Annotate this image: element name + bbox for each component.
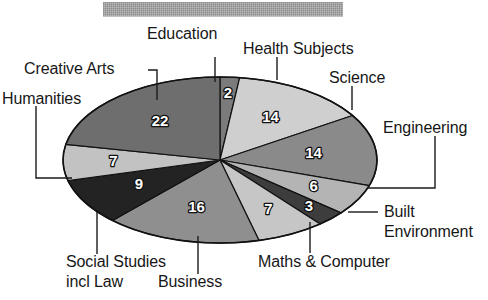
- label-humanities: Humanities: [2, 89, 81, 108]
- slice-value-label: 9: [135, 175, 143, 192]
- slice-value-label: 3: [305, 197, 313, 214]
- label-science: Science: [329, 68, 385, 87]
- label-built-environment-line1: Built: [384, 202, 415, 221]
- slice-value-label: 6: [309, 177, 317, 194]
- slice-value-label: 22: [152, 112, 169, 129]
- slice-value-label: 14: [262, 108, 279, 125]
- slice-value-label: 7: [109, 152, 117, 169]
- label-business: Business: [158, 272, 222, 291]
- label-engineering: Engineering: [383, 118, 467, 137]
- slice-value-label: 7: [264, 200, 272, 217]
- label-social-studies-line2: incl Law: [66, 272, 123, 291]
- label-maths-computer: Maths & Computer: [258, 252, 390, 271]
- label-built-environment-line2: Environment: [384, 222, 473, 241]
- slice-value-label: 14: [305, 144, 322, 161]
- slice-value-label: 16: [188, 198, 205, 215]
- label-social-studies-line1: Social Studies: [66, 252, 166, 271]
- label-creative-arts: Creative Arts: [24, 59, 114, 78]
- label-education: Education: [147, 24, 217, 43]
- label-health-subjects: Health Subjects: [243, 39, 354, 58]
- slice-value-label: 2: [224, 84, 232, 101]
- chart-canvas: 21414637169722 Creative Arts Humanities …: [0, 0, 488, 300]
